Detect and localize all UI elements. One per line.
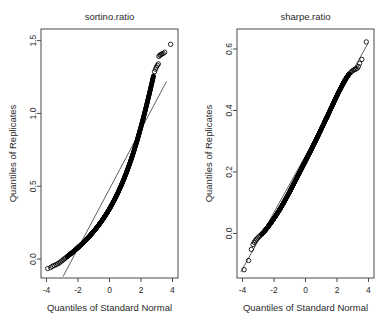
y-axis-label: Quantiles of Replicates	[7, 104, 18, 202]
y-tick-label: 1.5	[28, 34, 38, 46]
x-tick-label: 0	[107, 285, 112, 295]
x-tick-label: 2	[139, 285, 144, 295]
qq-plot-svg: sharpe.ratio-4-20240.00.20.40.6Quantiles…	[196, 0, 391, 329]
x-tick-label: 4	[366, 285, 371, 295]
y-tick-label: 0.4	[224, 104, 234, 116]
x-axis-label: Quantiles of Standard Normal	[243, 302, 368, 313]
y-tick-label: 0.6	[224, 43, 234, 55]
y-tick-label: 0.2	[224, 166, 234, 178]
panel-title: sortino.ratio	[85, 11, 135, 22]
y-tick-label: 0.5	[28, 180, 38, 192]
x-tick-label: -4	[43, 285, 51, 295]
x-tick-label: 2	[335, 285, 340, 295]
y-axis-label: Quantiles of Replicates	[203, 104, 214, 202]
x-tick-label: 0	[303, 285, 308, 295]
y-tick-label: 0.0	[224, 227, 234, 239]
qq-plot-figure: sortino.ratio-4-20240.00.51.01.5Quantile…	[0, 0, 391, 329]
panel-title: sharpe.ratio	[280, 11, 330, 22]
panel-sortino-ratio: sortino.ratio-4-20240.00.51.01.5Quantile…	[0, 0, 195, 329]
x-tick-label: -4	[239, 285, 247, 295]
x-tick-label: -2	[74, 285, 82, 295]
y-tick-label: 1.0	[28, 107, 38, 119]
x-axis-label: Quantiles of Standard Normal	[47, 302, 172, 313]
qq-plot-svg: sortino.ratio-4-20240.00.51.01.5Quantile…	[0, 0, 195, 329]
data-point	[152, 74, 156, 78]
panel-background	[0, 0, 195, 329]
y-tick-label: 0.0	[28, 253, 38, 265]
x-tick-label: 4	[170, 285, 175, 295]
panel-sharpe-ratio: sharpe.ratio-4-20240.00.20.40.6Quantiles…	[196, 0, 391, 329]
x-tick-label: -2	[270, 285, 278, 295]
